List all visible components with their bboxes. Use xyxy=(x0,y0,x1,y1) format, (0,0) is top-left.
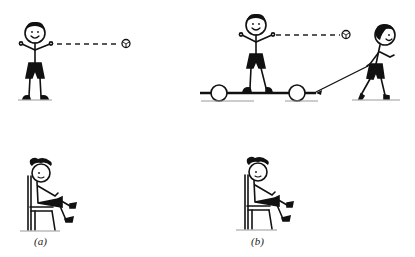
girl-on-chair-b xyxy=(245,157,293,229)
girl-on-chair-a xyxy=(28,158,76,230)
boy-standing-a xyxy=(19,22,52,99)
ball-icon xyxy=(122,40,130,48)
cart xyxy=(200,85,318,101)
figure-canvas xyxy=(0,0,415,257)
boy-pulling-cart xyxy=(359,24,395,99)
panel-label-b: (b) xyxy=(251,235,264,247)
panel-label-a: (a) xyxy=(34,235,47,247)
boy-on-cart xyxy=(239,14,274,92)
pull-rope xyxy=(316,66,368,92)
ball-icon-b xyxy=(342,31,350,39)
